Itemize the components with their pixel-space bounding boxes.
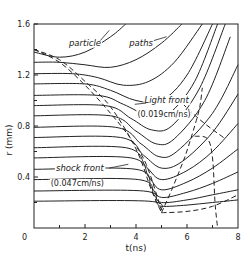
annotation-text: (0.047cm/ns) bbox=[51, 179, 104, 188]
data-series bbox=[34, 24, 238, 228]
annotation-text: (0.019cm/ns) bbox=[137, 110, 190, 119]
y-tick-label: 1.2 bbox=[17, 71, 30, 80]
particle-path-line bbox=[34, 201, 162, 211]
chart-svg: 2468 0.40.81.21.6 0 t(ns) r (mm) particl… bbox=[0, 0, 246, 255]
x-axis-label: t(ns) bbox=[126, 243, 147, 253]
annotation-text: particle bbox=[68, 38, 101, 48]
x-tick-label: 2 bbox=[82, 233, 87, 242]
origin-label: 0 bbox=[22, 233, 27, 242]
dashed-front-line bbox=[34, 50, 162, 213]
y-tick-label: 1.6 bbox=[17, 20, 30, 29]
x-tick-label: 6 bbox=[184, 233, 189, 242]
annotation-text: paths bbox=[128, 38, 153, 48]
x-tick-label: 8 bbox=[235, 233, 240, 242]
annotation-text: shock front bbox=[56, 163, 104, 173]
particle-path-line bbox=[34, 190, 238, 206]
particle-path-line bbox=[34, 24, 182, 67]
x-axis-ticks: 2468 bbox=[60, 224, 241, 242]
particle-path-line bbox=[34, 65, 238, 158]
annotation-text: Light front bbox=[144, 95, 189, 105]
annotations: particlepathsLight front(0.019cm/ns)shoc… bbox=[50, 30, 192, 188]
x-tick-label: 4 bbox=[133, 233, 138, 242]
y-axis-ticks: 0.40.81.21.6 bbox=[17, 20, 38, 203]
y-tick-label: 0.8 bbox=[17, 122, 30, 131]
y-tick-label: 0.4 bbox=[17, 173, 30, 182]
y-axis-label: r (mm) bbox=[4, 124, 14, 155]
plot-area bbox=[34, 24, 238, 228]
particle-path-line bbox=[34, 24, 202, 85]
particle-path-line bbox=[34, 24, 213, 103]
annotation-leader-line bbox=[109, 164, 128, 168]
